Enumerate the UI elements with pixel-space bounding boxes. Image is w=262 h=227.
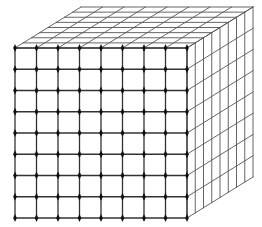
grid-node-marker [164, 193, 168, 201]
grid-node-marker [13, 193, 17, 201]
grid-node-marker [56, 44, 60, 52]
grid-node-marker [56, 129, 60, 137]
grid-node-marker [78, 44, 82, 52]
cube-grid-figure [0, 0, 262, 227]
grid-node-marker [35, 87, 39, 95]
grid-node-marker [142, 65, 146, 73]
grid-node-marker [142, 193, 146, 201]
grid-node-marker [99, 108, 103, 116]
grid-node-marker [13, 172, 17, 180]
grid-node-marker [78, 108, 82, 116]
grid-node-marker [78, 87, 82, 95]
grid-node-marker [185, 129, 189, 137]
grid-node-marker [142, 44, 146, 52]
grid-node-marker [142, 214, 146, 222]
grid-node-marker [121, 65, 125, 73]
grid-node-marker [185, 87, 189, 95]
grid-node-marker [121, 44, 125, 52]
grid-node-marker [185, 150, 189, 158]
grid-node-marker [99, 44, 103, 52]
grid-node-marker [142, 150, 146, 158]
grid-node-marker [142, 172, 146, 180]
grid-node-marker [13, 108, 17, 116]
grid-node-marker [164, 87, 168, 95]
grid-node-marker [185, 193, 189, 201]
grid-node-marker [121, 214, 125, 222]
grid-node-marker [13, 65, 17, 73]
grid-node-marker [121, 87, 125, 95]
grid-node-marker [121, 172, 125, 180]
grid-node-marker [35, 172, 39, 180]
grid-node-marker [56, 65, 60, 73]
grid-node-marker [56, 150, 60, 158]
grid-node-marker [121, 108, 125, 116]
grid-node-marker [185, 44, 189, 52]
grid-node-marker [164, 129, 168, 137]
grid-node-marker [78, 172, 82, 180]
grid-node-marker [164, 214, 168, 222]
grid-node-marker [13, 87, 17, 95]
grid-node-marker [56, 214, 60, 222]
grid-node-marker [78, 150, 82, 158]
grid-node-marker [13, 214, 17, 222]
right-side-face-grid [187, 7, 253, 218]
grid-node-marker [164, 65, 168, 73]
grid-node-marker [99, 129, 103, 137]
grid-node-marker [35, 129, 39, 137]
grid-node-marker [142, 87, 146, 95]
grid-node-marker [99, 214, 103, 222]
grid-node-marker [56, 172, 60, 180]
grid-node-marker [35, 214, 39, 222]
grid-node-marker [185, 172, 189, 180]
grid-node-marker [164, 108, 168, 116]
grid-node-marker [13, 44, 17, 52]
grid-node-marker [99, 65, 103, 73]
grid-node-marker [99, 87, 103, 95]
grid-node-marker [99, 150, 103, 158]
grid-node-marker [164, 150, 168, 158]
grid-node-marker [121, 193, 125, 201]
grid-node-marker [164, 44, 168, 52]
grid-node-marker [35, 193, 39, 201]
grid-node-marker [13, 150, 17, 158]
grid-node-marker [56, 87, 60, 95]
grid-node-marker [185, 65, 189, 73]
grid-node-marker [185, 214, 189, 222]
grid-node-marker [78, 129, 82, 137]
grid-node-marker [164, 172, 168, 180]
grid-node-marker [121, 150, 125, 158]
grid-node-marker [142, 108, 146, 116]
grid-node-marker [142, 129, 146, 137]
top-face-grid [15, 7, 253, 48]
grid-node-marker [99, 193, 103, 201]
grid-node-marker [185, 108, 189, 116]
grid-node-marker [99, 172, 103, 180]
cube-grid-diagram [0, 0, 262, 227]
grid-node-marker [56, 108, 60, 116]
grid-node-marker [56, 193, 60, 201]
grid-node-marker [35, 108, 39, 116]
grid-node-marker [78, 65, 82, 73]
grid-node-marker [35, 65, 39, 73]
grid-node-marker [13, 129, 17, 137]
grid-node-marker [35, 150, 39, 158]
grid-node-marker [78, 193, 82, 201]
grid-node-marker [35, 44, 39, 52]
grid-node-marker [121, 129, 125, 137]
grid-node-marker [78, 214, 82, 222]
